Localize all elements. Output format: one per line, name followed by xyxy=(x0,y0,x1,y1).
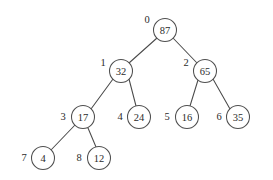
tree-node: 516 xyxy=(164,106,198,129)
node-value-label: 4 xyxy=(40,153,46,164)
tree-edge xyxy=(51,125,75,150)
node-layer: 08713226531742451663574812 xyxy=(21,14,249,170)
binary-heap-tree-diagram: 08713226531742451663574812 xyxy=(0,0,273,180)
tree-edge xyxy=(91,79,113,109)
node-value-label: 12 xyxy=(94,153,104,164)
tree-edge xyxy=(88,128,96,147)
node-index-label: 8 xyxy=(76,152,81,163)
tree-node: 265 xyxy=(183,57,216,83)
node-index-label: 4 xyxy=(117,111,123,122)
node-value-label: 24 xyxy=(134,112,145,123)
tree-node: 132 xyxy=(100,57,132,83)
node-index-label: 6 xyxy=(216,111,221,122)
tree-node: 087 xyxy=(144,14,176,42)
tree-node: 74 xyxy=(21,147,54,170)
node-index-label: 0 xyxy=(144,14,149,25)
tree-node: 635 xyxy=(216,106,249,129)
node-value-label: 87 xyxy=(160,25,170,36)
tree-edge xyxy=(129,38,157,63)
node-index-label: 1 xyxy=(100,57,105,68)
tree-edge xyxy=(190,80,198,106)
tree-edge xyxy=(129,79,136,106)
node-value-label: 65 xyxy=(200,66,210,77)
node-value-label: 35 xyxy=(233,112,243,123)
tree-canvas: 08713226531742451663574812 xyxy=(0,0,273,180)
tree-node: 812 xyxy=(76,147,110,170)
node-index-label: 5 xyxy=(164,111,169,122)
node-value-label: 16 xyxy=(182,112,192,123)
tree-node: 424 xyxy=(117,106,150,129)
node-value-label: 17 xyxy=(78,112,88,123)
tree-node: 317 xyxy=(60,106,94,129)
node-index-label: 2 xyxy=(183,57,188,68)
edge-layer xyxy=(51,38,230,150)
node-index-label: 3 xyxy=(60,111,65,122)
node-value-label: 32 xyxy=(116,66,126,77)
tree-edge xyxy=(213,79,230,109)
node-index-label: 7 xyxy=(21,152,26,163)
